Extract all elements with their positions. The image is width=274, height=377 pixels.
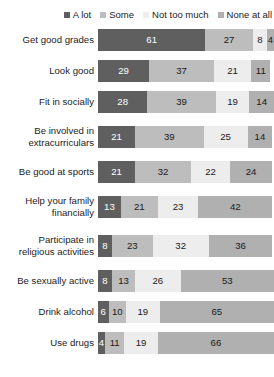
bar-segment: 19: [126, 301, 159, 323]
bar-segment: 21: [98, 161, 135, 183]
legend-item-a-lot: A lot: [64, 10, 92, 20]
segment-value-label: 13: [118, 276, 129, 286]
legend-item-label: Some: [109, 10, 134, 20]
segment-value-label: 19: [227, 97, 238, 107]
stacked-bar: 13212342: [98, 196, 274, 218]
bar-segment: 36: [209, 235, 272, 257]
legend-square-icon: [64, 12, 70, 18]
category-label: Get good grades: [0, 34, 98, 46]
segment-value-label: 36: [235, 241, 246, 251]
stacked-bar: 8233236: [98, 235, 274, 257]
bar-segment: 8: [98, 235, 112, 257]
bar-segment: 8: [253, 29, 267, 51]
segment-value-label: 22: [205, 167, 216, 177]
bar-segment: 13: [98, 196, 121, 218]
stacked-bar: 28391914: [98, 91, 274, 113]
bar-segment: 66: [158, 332, 274, 354]
bar-segment: 65: [160, 301, 274, 323]
segment-value-label: 32: [158, 167, 169, 177]
chart-row: Fit in socially28391914: [0, 86, 274, 117]
chart-row: Use drugs4111966: [0, 327, 274, 358]
category-label: Look good: [0, 65, 98, 77]
chart-row: Participate in religious activities82332…: [0, 226, 274, 265]
stacked-bar: 21392514: [98, 126, 274, 148]
segment-value-label: 37: [176, 66, 187, 76]
chart-row: Be involved in extracurriculars21392514: [0, 117, 274, 156]
legend-item-label: Not too much: [152, 10, 209, 20]
segment-value-label: 11: [256, 66, 266, 76]
segment-value-label: 27: [224, 35, 235, 45]
bar-segment: 24: [230, 161, 272, 183]
stacked-bar-chart: A lot Some Not too much None at all Get …: [0, 0, 274, 377]
stacked-bar: 21322224: [98, 161, 274, 183]
segment-value-label: 53: [222, 276, 233, 286]
segment-value-label: 61: [146, 35, 157, 45]
segment-value-label: 8: [257, 35, 262, 45]
category-label: Use drugs: [0, 337, 98, 349]
bar-segment: 4: [98, 332, 105, 354]
bar-segment: 29: [98, 60, 149, 82]
legend-item-none-at-all: None at all: [218, 10, 272, 20]
segment-value-label: 6: [101, 307, 106, 317]
bar-segment: 19: [216, 91, 249, 113]
stacked-bar: 29372111: [98, 60, 274, 82]
segment-value-label: 19: [136, 338, 147, 348]
stacked-bar: 8132653: [98, 270, 274, 292]
bar-segment: 21: [121, 196, 158, 218]
stacked-bar: 6101965: [98, 301, 274, 323]
legend-square-icon: [100, 12, 106, 18]
legend-square-icon: [143, 12, 149, 18]
category-label: Be sexually active: [0, 275, 98, 287]
bar-segment: 37: [149, 60, 214, 82]
bar-segment: 23: [112, 235, 152, 257]
segment-value-label: 39: [176, 97, 187, 107]
segment-value-label: 29: [118, 66, 129, 76]
bar-segment: 23: [158, 196, 198, 218]
category-label: Be good at sports: [0, 166, 98, 178]
bar-segment: 21: [98, 126, 135, 148]
segment-value-label: 32: [175, 241, 186, 251]
segment-value-label: 21: [227, 66, 238, 76]
legend-item-label: None at all: [227, 10, 272, 20]
segment-value-label: 4: [99, 338, 104, 348]
segment-value-label: 8: [102, 276, 107, 286]
category-label: Participate in religious activities: [0, 234, 98, 257]
segment-value-label: 10: [112, 307, 123, 317]
bar-segment: 21: [214, 60, 251, 82]
bar-segment: 25: [204, 126, 248, 148]
bar-segment: 11: [251, 60, 270, 82]
legend-item-not-too-much: Not too much: [143, 10, 209, 20]
segment-value-label: 21: [111, 132, 122, 142]
segment-value-label: 42: [230, 202, 241, 212]
segment-value-label: 39: [164, 132, 175, 142]
segment-value-label: 4: [268, 35, 273, 45]
bar-segment: 39: [147, 91, 216, 113]
bar-segment: 22: [191, 161, 230, 183]
bar-segment: 13: [112, 270, 135, 292]
bar-segment: 8: [98, 270, 112, 292]
segment-value-label: 14: [255, 132, 266, 142]
chart-legend: A lot Some Not too much None at all: [0, 0, 274, 24]
bar-segment: 14: [248, 126, 273, 148]
chart-row: Be good at sports21322224: [0, 156, 274, 187]
segment-value-label: 19: [138, 307, 149, 317]
category-label: Be involved in extracurriculars: [0, 125, 98, 148]
segment-value-label: 28: [117, 97, 128, 107]
bar-segment: 53: [181, 270, 274, 292]
bar-segment: 39: [135, 126, 204, 148]
bar-segment: 32: [135, 161, 191, 183]
bar-segment: 61: [98, 29, 205, 51]
stacked-bar: 4111966: [98, 332, 274, 354]
segment-value-label: 23: [127, 241, 138, 251]
segment-value-label: 65: [211, 307, 222, 317]
legend-item-some: Some: [100, 10, 134, 20]
legend-item-label: A lot: [73, 10, 92, 20]
segment-value-label: 14: [256, 97, 267, 107]
bar-segment: 19: [124, 332, 157, 354]
chart-plot-area: Get good grades612784Look good29372111Fi…: [0, 24, 274, 358]
bar-segment: 42: [198, 196, 272, 218]
segment-value-label: 23: [173, 202, 184, 212]
segment-value-label: 66: [211, 338, 222, 348]
chart-row: Drink alcohol6101965: [0, 296, 274, 327]
segment-value-label: 26: [152, 276, 163, 286]
